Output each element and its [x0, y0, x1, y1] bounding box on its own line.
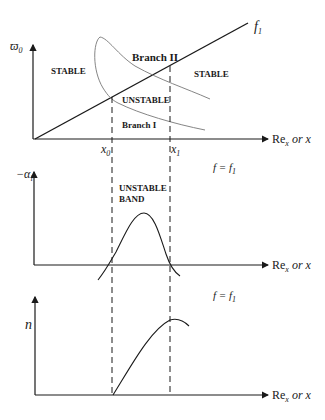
n-factor-curve [113, 319, 189, 395]
bottom-x-axis-label: Rex or x [272, 389, 311, 404]
unstable-band-label-1: UNSTABLE [119, 184, 167, 193]
middle-condition-label: f = f1 [213, 162, 236, 176]
middle-y-axis-label: −αi [16, 168, 33, 183]
stability-diagram [0, 0, 325, 420]
amplification-bell-curve [98, 213, 180, 280]
branch-2-curve [100, 37, 210, 99]
unstable-label: UNSTABLE [122, 96, 170, 105]
f1-line-label: f1 [254, 20, 262, 36]
unstable-band-label-2: BAND [119, 195, 145, 204]
x1-tick-label: x1 [171, 143, 180, 158]
x0-tick-label: x0 [101, 143, 110, 158]
bottom-y-axis-label: n [25, 318, 32, 332]
branch-1-label: Branch I [122, 121, 156, 130]
top-y-axis-label: ϖ0 [10, 40, 22, 55]
bottom-condition-label: f = f1 [213, 290, 236, 304]
bottom-panel-axes [35, 297, 268, 395]
middle-x-axis-label: Rex or x [272, 259, 311, 274]
stable-left-label: STABLE [51, 67, 86, 76]
top-x-axis-label: Rex or x [272, 133, 311, 148]
branch-2-label: Branch II [132, 52, 178, 63]
stable-right-label: STABLE [194, 70, 229, 79]
